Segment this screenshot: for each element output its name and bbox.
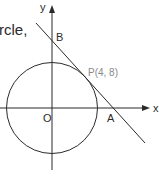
- point-b-label: B: [56, 32, 63, 43]
- origin-label: O: [43, 113, 52, 124]
- caption-text: rcle,: [0, 21, 27, 38]
- point-a-label: A: [107, 113, 114, 124]
- x-axis-label: x: [153, 103, 159, 114]
- y-axis-arrow-icon: [49, 5, 55, 13]
- point-p-label: P(4, 8): [88, 68, 118, 78]
- geometry-figure: rcle, y x B P(4, 8) A O: [0, 0, 159, 176]
- y-axis-label: y: [40, 2, 46, 13]
- x-axis-arrow-icon: [142, 105, 150, 111]
